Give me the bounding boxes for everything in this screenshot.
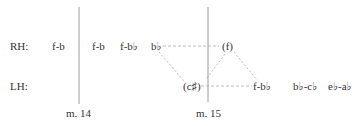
lh-note: f-b♭ bbox=[253, 80, 271, 92]
lh-note: b♭-c♭ bbox=[293, 80, 317, 92]
dash-csharp-to-f bbox=[207, 54, 225, 78]
dash-f-to-fbb bbox=[234, 52, 257, 80]
rh-note: f-b bbox=[92, 40, 105, 52]
connector-lines bbox=[0, 0, 362, 126]
rh-note: (f) bbox=[222, 40, 233, 52]
lh-note: (c♯) bbox=[183, 80, 201, 92]
measure-label-15: m. 15 bbox=[196, 107, 221, 119]
dash-bb-to-csharp bbox=[159, 52, 184, 81]
measure-label-14: m. 14 bbox=[66, 107, 91, 119]
rh-label: RH: bbox=[10, 40, 28, 52]
rh-note: f-b bbox=[52, 40, 65, 52]
rh-note: b♭ bbox=[151, 40, 162, 52]
rh-note: f-b♭ bbox=[120, 40, 138, 52]
lh-label: LH: bbox=[10, 80, 28, 92]
lh-note: e♭-a♭ bbox=[328, 80, 352, 92]
